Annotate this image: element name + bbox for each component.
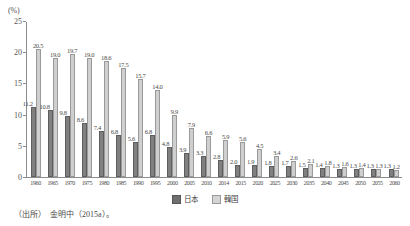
plot-area: 0510152025 11.220.510.819.09.819.78.619.… (26, 22, 402, 178)
legend-swatch-kr (212, 195, 221, 204)
bar-kr: 3.4 (274, 156, 279, 177)
x-tick-label: 2060 (386, 180, 403, 186)
bar-value-label: 1.4 (315, 162, 322, 169)
bar-group: 11.220.5 (27, 22, 44, 177)
bar-kr: 20.5 (36, 49, 41, 177)
bar-kr: 4.5 (257, 149, 262, 177)
bar-group: 4.89.9 (163, 22, 180, 177)
x-tick-label: 1985 (112, 180, 129, 186)
bar-group: 1.31.4 (351, 22, 368, 177)
bar-value-label: 1.3 (383, 163, 390, 170)
bar-kr: 14.0 (155, 90, 160, 177)
legend-item-kr[interactable]: 韓国 (212, 195, 238, 204)
bar-kr: 1.4 (359, 168, 364, 177)
bar-value-label: 2.6 (290, 155, 297, 162)
y-tick-mark (23, 83, 26, 84)
bar-group: 6.817.5 (112, 22, 129, 177)
bar-group: 1.94.5 (249, 22, 266, 177)
bar-value-label: 6.8 (145, 129, 152, 136)
y-tick-mark (23, 146, 26, 147)
x-tick-label: 1980 (95, 180, 112, 186)
chart-figure: (%) 0510152025 11.220.510.819.09.819.78.… (0, 0, 410, 226)
x-tick-label: 1965 (44, 180, 61, 186)
bar-value-label: 8.6 (77, 117, 84, 124)
bar-value-label: 15.7 (135, 73, 145, 80)
bar-value-label: 9.8 (60, 110, 67, 117)
bar-value-label: 7.4 (94, 125, 101, 132)
bar-value-label: 6.6 (205, 130, 212, 137)
bar-value-label: 2.1 (307, 158, 314, 165)
bar-value-label: 17.5 (118, 62, 128, 69)
bar-group: 8.619.0 (78, 22, 95, 177)
bar-value-label: 1.3 (349, 163, 356, 170)
bar-value-label: 11.2 (23, 101, 33, 108)
bar-group: 1.31.6 (334, 22, 351, 177)
bar-value-label: 19.0 (84, 52, 94, 59)
bar-group: 1.41.8 (317, 22, 334, 177)
bar-kr: 1.2 (394, 170, 399, 177)
bar-kr: 19.7 (70, 54, 75, 177)
bar-value-label: 1.8 (264, 160, 271, 167)
bar-kr: 2.6 (291, 161, 296, 177)
bar-value-label: 2.0 (230, 159, 237, 166)
bar-value-label: 3.9 (179, 147, 186, 154)
bar-value-label: 1.2 (392, 164, 399, 171)
bar-group: 1.72.6 (283, 22, 300, 177)
bar-value-label: 10.8 (40, 104, 50, 111)
bar-group: 10.819.0 (44, 22, 61, 177)
x-axis-labels: 1960196519701975198019851990199520002005… (27, 180, 403, 186)
bar-value-label: 9.9 (171, 109, 178, 116)
y-tick-mark (23, 177, 26, 178)
bar-group: 2.05.6 (232, 22, 249, 177)
bar-value-label: 6.8 (111, 129, 118, 136)
source-note: （出所） 金明中（2015a）。 (14, 208, 114, 219)
y-tick-mark (23, 21, 26, 22)
x-tick-label: 2055 (369, 180, 386, 186)
bar-kr: 7.9 (189, 128, 194, 177)
y-tick-label: 10 (14, 112, 22, 120)
x-tick-label: 2010 (198, 180, 215, 186)
y-tick-mark (23, 115, 26, 116)
y-tick-label: 0 (18, 174, 22, 182)
bar-group: 1.31.3 (368, 22, 385, 177)
bar-group: 1.52.1 (300, 22, 317, 177)
x-tick-label: 1970 (61, 180, 78, 186)
x-tick-label: 2045 (335, 180, 352, 186)
bar-kr: 1.3 (376, 169, 381, 177)
bar-kr: 6.6 (206, 136, 211, 177)
bar-value-label: 19.7 (67, 48, 77, 55)
bar-value-label: 14.0 (152, 84, 162, 91)
bar-value-label: 3.3 (196, 150, 203, 157)
bar-value-label: 1.8 (324, 160, 331, 167)
bar-kr: 1.6 (342, 167, 347, 177)
bar-value-label: 1.4 (358, 162, 365, 169)
bar-group: 7.418.6 (95, 22, 112, 177)
x-tick-label: 2020 (249, 180, 266, 186)
bar-value-label: 1.3 (366, 163, 373, 170)
y-tick-label: 15 (14, 80, 22, 88)
bar-kr: 19.0 (87, 58, 92, 177)
bar-value-label: 5.6 (239, 136, 246, 143)
legend-label: 日本 (184, 196, 198, 204)
x-axis-line (26, 177, 402, 178)
bar-kr: 15.7 (138, 79, 143, 177)
bar-value-label: 3.4 (273, 150, 280, 157)
bar-value-label: 18.6 (101, 55, 111, 62)
bar-group: 5.615.7 (129, 22, 146, 177)
bar-value-label: 19.0 (50, 52, 60, 59)
x-tick-label: 1975 (78, 180, 95, 186)
bar-value-label: 1.9 (247, 159, 254, 166)
x-tick-label: 2040 (318, 180, 335, 186)
bar-kr: 5.6 (240, 142, 245, 177)
bar-group: 3.36.6 (197, 22, 214, 177)
bar-group: 1.83.4 (266, 22, 283, 177)
y-tick-mark (23, 52, 26, 53)
bar-group: 6.814.0 (146, 22, 163, 177)
y-tick-label: 5 (18, 143, 22, 151)
legend-item-jp[interactable]: 日本 (172, 195, 198, 204)
x-tick-label: 1990 (130, 180, 147, 186)
bar-value-label: 1.6 (341, 161, 348, 168)
bar-value-label: 1.3 (375, 163, 382, 170)
x-tick-label: 2030 (283, 180, 300, 186)
bar-value-label: 1.3 (332, 163, 339, 170)
